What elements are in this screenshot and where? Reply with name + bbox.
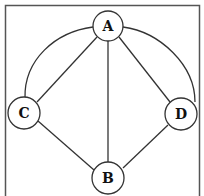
svg-text:C: C [18, 105, 29, 121]
edge-c-b [38, 121, 94, 170]
graph-diagram: A B C D [0, 0, 204, 196]
edge-arc-a-d [123, 27, 195, 102]
edge-a-d [119, 37, 170, 102]
graph-canvas: A B C D [0, 0, 204, 196]
node-d: D [165, 98, 197, 130]
edge-a-c [37, 37, 97, 102]
edge-arc-a-c [25, 27, 93, 98]
node-b: B [92, 162, 124, 194]
svg-text:A: A [102, 18, 115, 34]
node-a: A [93, 11, 123, 41]
node-c: C [8, 97, 40, 129]
svg-text:D: D [175, 106, 187, 122]
svg-text:B: B [102, 170, 114, 186]
edge-d-b [123, 125, 168, 168]
